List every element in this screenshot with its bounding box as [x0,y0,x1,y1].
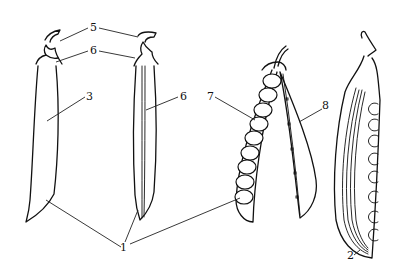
labels: 5 6 3 6 7 8 1 2 [86,21,354,262]
label-2: 2 [347,249,354,262]
label-4: 5 [90,21,97,34]
label-3: 3 [86,90,93,103]
leader-lines [46,28,360,255]
closed-pod-front-view [134,32,158,220]
pea-pod-diagram: 5 6 3 6 7 8 1 2 [0,0,418,278]
sectioned-pod [334,31,380,258]
label-6: 6 [180,90,187,103]
label-8: 8 [322,99,329,112]
label-1: 1 [120,241,127,254]
label-5: 6 [90,44,97,57]
label-7: 7 [207,90,214,103]
closed-pod-side-view [26,30,62,222]
opened-pod [235,46,316,222]
